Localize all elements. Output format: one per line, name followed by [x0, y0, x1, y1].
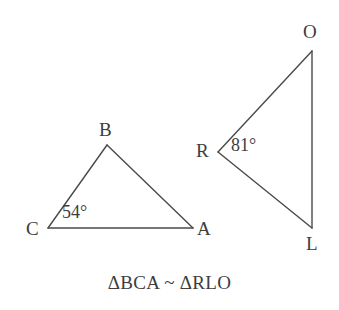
- vertex-label-L: L: [306, 234, 318, 253]
- vertex-label-R: R: [196, 141, 209, 160]
- angle-label-R-81: 81°: [231, 136, 256, 154]
- vertex-label-A: A: [197, 219, 211, 238]
- vertex-label-O: O: [303, 22, 317, 41]
- similarity-statement: ΔBCA ~ ΔRLO: [0, 272, 339, 294]
- vertex-label-B: B: [99, 120, 112, 139]
- diagram-canvas: [0, 0, 339, 310]
- edge-L-R: [218, 152, 312, 228]
- geometry-figure: B C A 54° O R L 81° ΔBCA ~ ΔRLO: [0, 0, 339, 310]
- vertex-label-C: C: [26, 219, 39, 238]
- edge-B-A: [107, 145, 193, 228]
- angle-label-C-54: 54°: [62, 203, 87, 221]
